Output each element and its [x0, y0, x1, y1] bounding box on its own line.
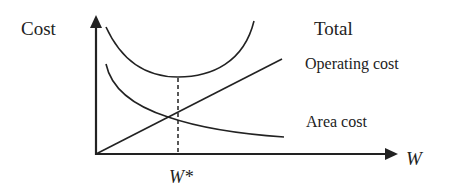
y-axis-arrow-icon: [90, 15, 102, 28]
operating-cost-label: Operating cost: [305, 55, 399, 73]
x-axis-arrow-icon: [385, 148, 398, 160]
area-cost-label: Area cost: [306, 113, 367, 130]
optimum-label: W*: [169, 167, 193, 187]
x-axis-label: W: [406, 148, 424, 169]
operating-cost-line: [96, 59, 282, 154]
total-curve: [106, 21, 254, 77]
total-label: Total: [314, 18, 353, 39]
y-axis-label: Cost: [21, 18, 57, 39]
cost-tradeoff-diagram: Cost Total Operating cost Area cost W W*: [0, 0, 450, 188]
